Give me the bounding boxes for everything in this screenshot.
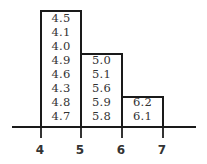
data-value: 4.0 <box>52 39 71 53</box>
data-value: 4.3 <box>52 81 71 95</box>
data-value: 4.8 <box>52 95 71 109</box>
data-value: 4.1 <box>52 25 71 39</box>
x-tick-mark <box>40 128 42 138</box>
data-value: 5.9 <box>92 95 111 109</box>
data-value: 5.1 <box>92 67 111 81</box>
x-tick-label: 5 <box>70 143 90 157</box>
x-tick-label: 6 <box>111 143 131 157</box>
bar-values: 4.5 4.1 4.0 4.9 4.6 4.3 4.8 4.7 <box>42 11 80 123</box>
data-value: 6.2 <box>133 95 152 109</box>
data-value: 5.6 <box>92 81 111 95</box>
data-value: 5.8 <box>92 109 111 123</box>
data-value: 4.5 <box>52 11 71 25</box>
x-tick-mark <box>80 128 82 138</box>
x-tick-mark <box>121 128 123 138</box>
bar-values: 5.0 5.1 5.6 5.9 5.8 <box>82 53 121 123</box>
data-value: 4.7 <box>52 109 71 123</box>
x-tick-mark <box>162 128 164 138</box>
bar-values: 6.2 6.1 <box>123 95 162 123</box>
data-value: 5.0 <box>92 53 111 67</box>
x-tick-label: 4 <box>30 143 50 157</box>
x-tick-label: 7 <box>152 143 172 157</box>
data-value: 4.6 <box>52 67 71 81</box>
histogram-bar-5-6: 5.0 5.1 5.6 5.9 5.8 <box>80 53 123 128</box>
data-value: 4.9 <box>52 53 71 67</box>
data-value: 6.1 <box>133 109 152 123</box>
histogram-bar-6-7: 6.2 6.1 <box>121 96 164 128</box>
histogram-bar-4-5: 4.5 4.1 4.0 4.9 4.6 4.3 4.8 4.7 <box>40 10 82 128</box>
